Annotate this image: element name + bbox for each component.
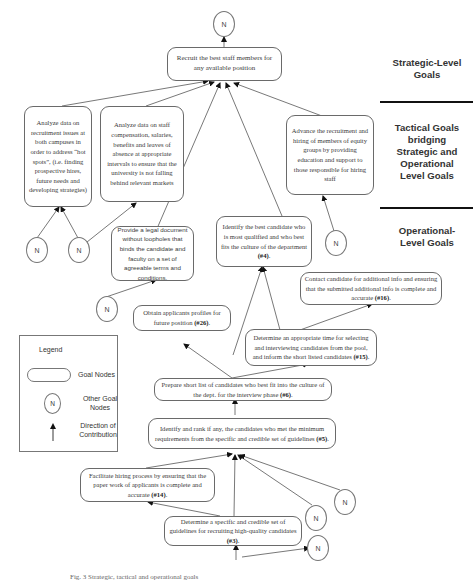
goal-tactical-equity[interactable]: Advance the recruitment and hiring of me…: [286, 115, 374, 195]
other-goal-node-rank-2[interactable]: N: [334, 489, 356, 515]
level-label-operational: Operational- Level Goals: [384, 225, 470, 249]
figure-caption: Fig. 3 Strategic, tactical and operation…: [70, 573, 198, 581]
other-goal-node-top[interactable]: N: [213, 11, 235, 37]
other-goal-node-hotspots-1[interactable]: N: [26, 237, 48, 263]
legend-direction-label: Direction of Contribution: [76, 421, 120, 439]
goal-applicant-profiles[interactable]: Obtain applicants profiles for future po…: [133, 305, 231, 331]
other-goal-node-equity[interactable]: N: [325, 230, 347, 256]
goal-tactical-hotspots[interactable]: Analyze data on recruitment issues at bo…: [24, 106, 92, 207]
goal-facilitate-hiring[interactable]: Facilitate hiring process by ensuring th…: [80, 468, 215, 502]
arrow-up-icon: [50, 423, 56, 441]
goal-tactical-compensation[interactable]: Analyze data on staff compensation, sala…: [100, 106, 184, 202]
goal-short-list[interactable]: Prepare short list of candidates who bes…: [154, 378, 332, 401]
other-goal-node-rank-1[interactable]: N: [305, 505, 327, 531]
goal-contact-candidate[interactable]: Contact candidate for additional info an…: [300, 272, 442, 305]
goal-strategic-recruit-best-staff[interactable]: Recruit the best staff members for any a…: [167, 47, 282, 81]
legend-title: Legend: [39, 346, 62, 353]
legend-other-goal-nodes-label: Other Goal Nodes: [80, 394, 120, 412]
other-goal-node-guidelines[interactable]: N: [307, 535, 329, 561]
other-goal-node-legal[interactable]: N: [96, 296, 118, 322]
goal-best-candidate[interactable]: Identify the best candidate who is most …: [216, 216, 312, 267]
goal-guidelines[interactable]: Determine a specific and credible set of…: [164, 516, 302, 546]
goal-determine-time[interactable]: Determine an appropriate time for select…: [245, 329, 377, 366]
level-label-strategic: Strategic-Level Goals: [384, 57, 470, 81]
other-goal-node-hotspots-2[interactable]: N: [68, 237, 90, 263]
level-label-tactical: Tactical Goals bridging Strategic and Op…: [384, 122, 470, 182]
goal-legal-document[interactable]: Provide a legal document without loophol…: [111, 226, 194, 281]
legend-goal-node-shape: [27, 368, 71, 382]
level-divider-tactical-operational: [380, 207, 473, 209]
legend: Legend Goal Nodes N Other Goal Nodes Dir…: [19, 335, 118, 452]
legend-goal-nodes-label: Goal Nodes: [78, 371, 115, 378]
goal-rank-candidates[interactable]: Identify and rank if any, the candidates…: [148, 418, 336, 449]
level-divider-strategic-tactical: [380, 101, 473, 103]
legend-other-node-shape: N: [44, 393, 61, 414]
